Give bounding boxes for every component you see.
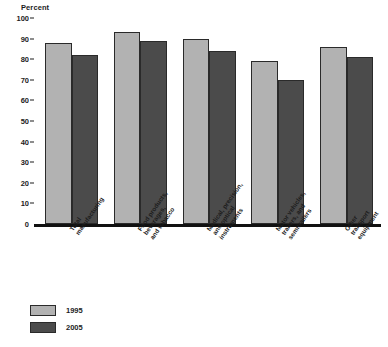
bar-chart-figure: Percent 0102030405060708090100 19952005 … <box>0 0 388 347</box>
y-axis-tick-mark <box>30 38 34 39</box>
y-axis-tick-label: 30 <box>21 158 29 167</box>
y-axis-tick-label: 90 <box>21 34 29 43</box>
y-axis-tick-label: 70 <box>21 75 29 84</box>
bar-1995-1 <box>45 43 72 224</box>
y-axis-tick-mark <box>30 203 34 204</box>
y-axis-tick-mark <box>30 18 34 19</box>
bar-1995-4 <box>251 61 278 224</box>
y-axis-tick-label: 100 <box>16 14 29 23</box>
y-axis-title: Percent <box>21 3 49 12</box>
legend-item-1995: 1995 <box>30 303 83 317</box>
y-axis-tick-label: 10 <box>21 199 29 208</box>
plot-area: 0102030405060708090100 <box>34 18 378 224</box>
y-axis-tick-label: 50 <box>21 117 29 126</box>
y-axis-tick-mark <box>30 79 34 80</box>
y-axis-tick-label: 20 <box>21 178 29 187</box>
chart-legend: 19952005 <box>30 303 83 337</box>
legend-swatch-2005 <box>30 322 56 333</box>
y-axis-tick-mark <box>30 141 34 142</box>
y-axis-tick-mark <box>30 59 34 60</box>
bar-1995-5 <box>320 47 347 224</box>
bar-2005-5 <box>347 57 374 224</box>
y-axis-tick-label: 60 <box>21 96 29 105</box>
legend-label-2005: 2005 <box>66 323 83 332</box>
y-axis-tick-mark <box>30 100 34 101</box>
bar-1995-3 <box>183 39 210 224</box>
y-axis-tick-label: 80 <box>21 55 29 64</box>
y-axis-tick-label: 40 <box>21 137 29 146</box>
legend-swatch-1995 <box>30 305 56 316</box>
legend-label-1995: 1995 <box>66 306 83 315</box>
y-axis-tick-mark <box>30 162 34 163</box>
y-axis-tick-label: 0 <box>25 220 29 229</box>
legend-item-2005: 2005 <box>30 320 83 334</box>
y-axis-tick-mark <box>30 182 34 183</box>
bar-1995-2 <box>114 32 141 224</box>
y-axis-tick-mark <box>30 121 34 122</box>
